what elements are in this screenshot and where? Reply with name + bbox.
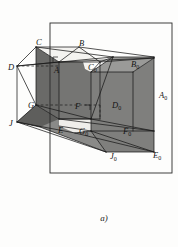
vertex-label-D: D <box>7 62 15 72</box>
vertex-label-E: E <box>57 125 64 135</box>
vertex-label-G: G <box>28 100 34 110</box>
geometry-figure: C B D A C0 B0 A0 G F D0 J E G0 F0 J0 E0 … <box>0 0 178 247</box>
vertex-label-A0: A0 <box>158 90 167 101</box>
edge-D-C <box>17 47 36 66</box>
vertex-label-E0: E0 <box>152 150 161 161</box>
vertex-label-J0: J0 <box>110 151 117 162</box>
vertex-label-J: J <box>9 118 14 128</box>
figure-caption: a) <box>100 213 108 223</box>
figure-container: C B D A C0 B0 A0 G F D0 J E G0 F0 J0 E0 … <box>0 0 178 247</box>
vertex-label-A: A <box>53 65 60 75</box>
vertex-label-C0: C0 <box>88 62 97 73</box>
vertex-label-C: C <box>36 37 42 47</box>
vertex-label-F: F <box>74 101 81 111</box>
vertex-label-B: B <box>79 38 84 48</box>
